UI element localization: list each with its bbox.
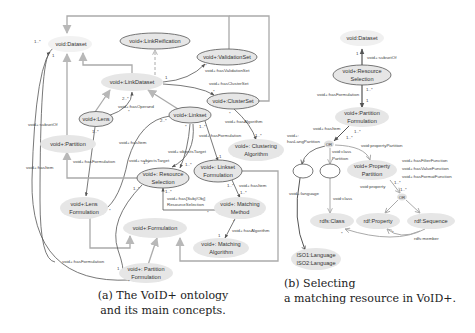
svg-text:1..*: 1..* bbox=[394, 180, 401, 185]
svg-text:rdf:Property: rdf:Property bbox=[363, 218, 392, 224]
svg-text:1: 1 bbox=[218, 233, 221, 238]
svg-text:void+: Resource: void+: Resource bbox=[143, 171, 184, 177]
svg-text:*: * bbox=[128, 109, 130, 114]
svg-text:ISO2:Language: ISO2:Language bbox=[296, 260, 335, 266]
svg-text:void+:ValidationSet: void+:ValidationSet bbox=[203, 54, 251, 60]
svg-text:void+:Resource: void+:Resource bbox=[342, 68, 381, 74]
svg-text:*: * bbox=[341, 231, 343, 236]
svg-text:1..*: 1..* bbox=[366, 87, 373, 92]
svg-text:void+:Linkset: void+:Linkset bbox=[174, 112, 207, 118]
svg-text:void+:objectsTarget: void+:objectsTarget bbox=[168, 149, 207, 154]
svg-text:void+:hasItem: void+:hasItem bbox=[313, 126, 341, 131]
svg-text:1..*: 1..* bbox=[165, 189, 172, 194]
svg-text:1: 1 bbox=[52, 53, 55, 58]
svg-text:Method: Method bbox=[231, 209, 250, 215]
figure-b-nodes: void:Dataset void+:Resource Selection vo… bbox=[291, 30, 455, 270]
svg-text:void:property: void:property bbox=[360, 184, 386, 189]
svg-text:void+:hasAlgorithm: void+:hasAlgorithm bbox=[232, 228, 270, 233]
node-rdf-property: rdf:Property bbox=[356, 213, 400, 229]
svg-text:void+:Partition: void+:Partition bbox=[344, 110, 380, 116]
svg-text:ISO1:Language: ISO1:Language bbox=[296, 252, 335, 258]
svg-text:void+:ClusterSet: void+:ClusterSet bbox=[212, 98, 254, 104]
svg-text:*: * bbox=[128, 279, 130, 284]
svg-text:void+:language: void+:language bbox=[289, 191, 319, 196]
svg-text:1..*: 1..* bbox=[240, 190, 247, 195]
node-property-partition: void+:Property Partition bbox=[347, 160, 397, 180]
svg-text:1: 1 bbox=[356, 51, 359, 56]
svg-text:void+:Partition: void+:Partition bbox=[50, 141, 86, 147]
node-dataset-b: void:Dataset bbox=[340, 30, 384, 46]
svg-text:void+:hasItem: void+:hasItem bbox=[119, 140, 147, 145]
svg-text:void+:hasItem: void+:hasItem bbox=[26, 165, 54, 170]
caption-b-line1: (b) Selecting bbox=[284, 276, 469, 291]
svg-text:void+:LinkReification: void+:LinkReification bbox=[129, 38, 180, 44]
node-lens: void+:Lens bbox=[79, 112, 113, 127]
svg-text:void+:Lens: void+:Lens bbox=[82, 116, 109, 122]
svg-text:1..*: 1..* bbox=[92, 129, 99, 134]
node-lens-formulation: void+:Lens Formulation bbox=[60, 197, 108, 219]
node-iso-language: ISO1:Language ISO2:Language bbox=[291, 248, 341, 270]
svg-text:Selection: Selection bbox=[350, 76, 373, 82]
svg-text:rdfs:member: rdfs:member bbox=[414, 236, 439, 241]
caption-a-line1: (a) The VoID+ ontology bbox=[88, 288, 238, 303]
svg-text:1: 1 bbox=[219, 154, 222, 159]
svg-text:OR: OR bbox=[326, 142, 333, 147]
node-link-reification: void+:LinkReification bbox=[120, 33, 190, 49]
svg-text:Algorithm: Algorithm bbox=[209, 249, 233, 255]
svg-text:void+:hasFormulation: void+:hasFormulation bbox=[317, 92, 360, 97]
svg-text:OR: OR bbox=[399, 195, 406, 200]
node-rdf-sequence: rdf:Sequence bbox=[407, 213, 455, 229]
svg-text:*: * bbox=[185, 124, 187, 129]
node-language-partition bbox=[293, 164, 313, 178]
node-partition-formulation-b: void+:Partition Formulation bbox=[335, 107, 389, 127]
node-linkset-formulation: void+: Linkset Formulation bbox=[194, 160, 242, 182]
node-rdfs-class: rdfs:Class bbox=[310, 213, 354, 229]
svg-text:void+:hasValueFunction: void+:hasValueFunction bbox=[402, 166, 449, 171]
svg-text:ResourceSelection: ResourceSelection bbox=[167, 202, 204, 207]
svg-text:void+: Linkset: void+: Linkset bbox=[201, 164, 236, 170]
svg-text:void:class: void:class bbox=[332, 149, 352, 154]
svg-text:1: 1 bbox=[165, 75, 168, 80]
node-matching-algorithm: void+: Matching Algorithm bbox=[193, 238, 249, 258]
svg-text:1: 1 bbox=[117, 266, 120, 271]
node-linkset: void+:Linkset bbox=[169, 107, 211, 123]
svg-text:void+: Matching: void+: Matching bbox=[201, 241, 240, 247]
svg-text:void+:hasFormatFunction: void+:hasFormatFunction bbox=[402, 174, 452, 179]
svg-text:void+:subsetOf: void+:subsetOf bbox=[28, 122, 58, 127]
svg-text:void+:hasFormulation: void+:hasFormulation bbox=[199, 133, 242, 138]
node-link-dataset: void+:LinkDataset bbox=[101, 73, 163, 91]
node-matching-method: void+: Matching Method bbox=[214, 197, 266, 219]
svg-text:1..*: 1..* bbox=[400, 187, 407, 192]
node-class-partition bbox=[320, 164, 340, 178]
svg-text:void+:hasFilterFunction: void+:hasFilterFunction bbox=[402, 158, 448, 163]
svg-text:void:Dataset: void:Dataset bbox=[346, 35, 378, 41]
svg-text:*: * bbox=[233, 219, 235, 224]
svg-text:void+:has[Subj/Obj]: void+:has[Subj/Obj] bbox=[167, 196, 205, 201]
svg-text:void+:Lens: void+:Lens bbox=[70, 201, 97, 207]
svg-text:1..*: 1..* bbox=[34, 39, 41, 44]
svg-text:void+:hasFormulation: void+:hasFormulation bbox=[73, 159, 116, 164]
svg-text:void+: Partition: void+: Partition bbox=[127, 266, 164, 272]
svg-text:1..*: 1..* bbox=[185, 162, 192, 167]
node-cluster-set: void+:ClusterSet bbox=[207, 93, 259, 109]
svg-text:*: * bbox=[392, 230, 394, 235]
svg-text:void+:hasOperand: void+:hasOperand bbox=[118, 104, 155, 109]
caption-a-line2: and its main concepts. bbox=[88, 303, 238, 318]
svg-text:1..*: 1..* bbox=[346, 135, 353, 140]
svg-text:void+:subsetOf: void+:subsetOf bbox=[367, 55, 397, 60]
svg-text:void+:hasClusterSet: void+:hasClusterSet bbox=[209, 81, 249, 86]
svg-text:void+: Clustering: void+: Clustering bbox=[235, 143, 277, 149]
svg-text:Formulation: Formulation bbox=[347, 118, 377, 124]
caption-figure-b: (b) Selecting a matching resource in VoI… bbox=[284, 276, 469, 306]
svg-text:void+:hasItem: void+:hasItem bbox=[239, 183, 267, 188]
svg-text:2..*: 2..* bbox=[160, 118, 167, 123]
svg-text:1: 1 bbox=[366, 98, 369, 103]
svg-text:void+:: void+: bbox=[287, 133, 299, 138]
svg-text:2..*: 2..* bbox=[122, 96, 129, 101]
svg-text:1..*: 1..* bbox=[255, 133, 262, 138]
svg-text:void:propertyPartition: void:propertyPartition bbox=[361, 143, 403, 148]
svg-text:*: * bbox=[205, 63, 207, 68]
node-resource-selection-b: void+:Resource Selection bbox=[333, 65, 391, 85]
node-partition: void+:Partition bbox=[40, 135, 96, 153]
svg-text:void+:Property: void+:Property bbox=[354, 163, 390, 169]
